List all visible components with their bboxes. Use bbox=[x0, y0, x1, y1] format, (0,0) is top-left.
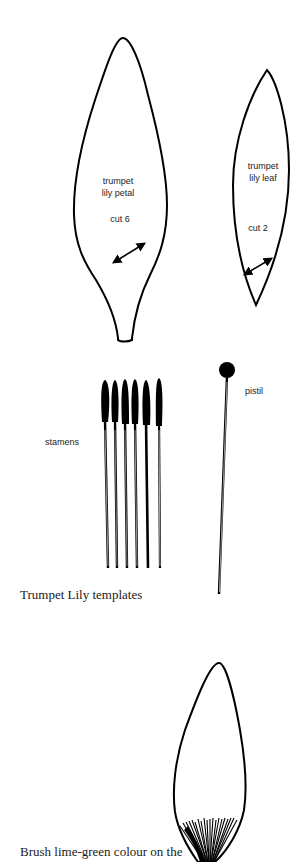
instruction-text: Brush lime-green colour on the bbox=[20, 844, 182, 860]
leaf-name-line2: lily leaf bbox=[240, 172, 286, 184]
pistil-template bbox=[219, 362, 235, 594]
leaf-grain-arrow bbox=[247, 260, 269, 273]
brush-stroke-hatching bbox=[180, 818, 237, 862]
petal-cut-count: cut 6 bbox=[103, 213, 137, 225]
leaf-name-label: trumpet lily leaf bbox=[240, 160, 286, 184]
leaf-name-line1: trumpet bbox=[240, 160, 286, 172]
petal-grain-arrow bbox=[116, 245, 142, 261]
leaf-cut-count: cut 2 bbox=[241, 222, 275, 234]
template-drawing bbox=[0, 0, 300, 862]
petal-name-line2: lily petal bbox=[93, 187, 143, 199]
stamens-template bbox=[101, 378, 162, 568]
petal-name-line1: trumpet bbox=[93, 175, 143, 187]
stamens-label: stamens bbox=[45, 436, 79, 448]
leaf-template bbox=[233, 70, 289, 305]
pistil-label: pistil bbox=[245, 385, 263, 397]
template-page: trumpet lily petal cut 6 trumpet lily le… bbox=[0, 0, 300, 862]
templates-caption: Trumpet Lily templates bbox=[20, 587, 142, 603]
brushed-petal-illustration bbox=[174, 663, 246, 862]
petal-name-label: trumpet lily petal bbox=[93, 175, 143, 199]
